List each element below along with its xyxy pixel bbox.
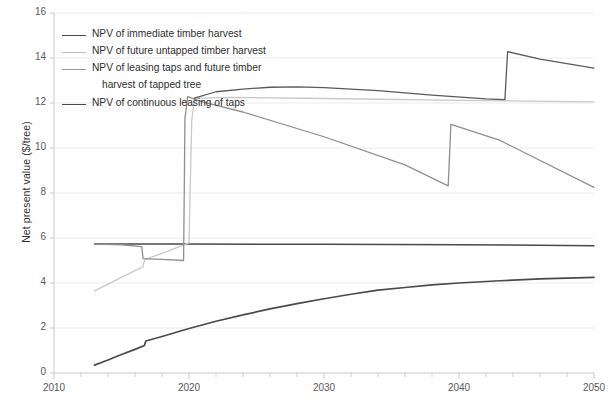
legend-item-label: NPV of future untapped timber harvest [92, 45, 266, 56]
y-axis-tick-label: 16 [24, 6, 46, 17]
legend-item-continuous-leasing-of-taps: NPV of continuous leasing of taps [62, 97, 266, 114]
legend-item-future-untapped-timber-harvest: NPV of future untapped timber harvest [62, 45, 266, 62]
legend-swatch-icon [62, 48, 86, 58]
legend-item-immediate-timber-harvest: NPV of immediate timber harvest [62, 28, 266, 45]
x-axis-tick-label: 2020 [167, 382, 211, 393]
legend-swatch-icon [62, 65, 86, 75]
chart-legend: NPV of immediate timber harvest NPV of f… [62, 28, 266, 114]
y-axis-tick-label: 2 [24, 321, 46, 332]
legend-swatch-icon [62, 100, 86, 110]
y-axis-tick-label: 14 [24, 51, 46, 62]
legend-item-label-continuation: harvest of tapped tree [102, 79, 266, 97]
chart-container: 0246810121416 20102020203020402050 Net p… [0, 0, 612, 399]
legend-item-label: NPV of immediate timber harvest [92, 28, 241, 39]
legend-swatch-icon [62, 31, 86, 41]
x-axis-tick-label: 2030 [302, 382, 346, 393]
legend-item-leasing-taps-and-future-timber: NPV of leasing taps and future timber [62, 62, 266, 79]
legend-item-label: NPV of leasing taps and future timber [92, 62, 261, 73]
x-axis-tick-label: 2040 [437, 382, 481, 393]
x-axis-tick-label: 2050 [572, 382, 612, 393]
y-axis-title: Net present value ($/tree) [20, 72, 32, 292]
legend-item-label: NPV of continuous leasing of taps [92, 97, 245, 108]
y-axis-tick-label: 0 [24, 366, 46, 377]
x-axis-tick-label: 2010 [32, 382, 76, 393]
